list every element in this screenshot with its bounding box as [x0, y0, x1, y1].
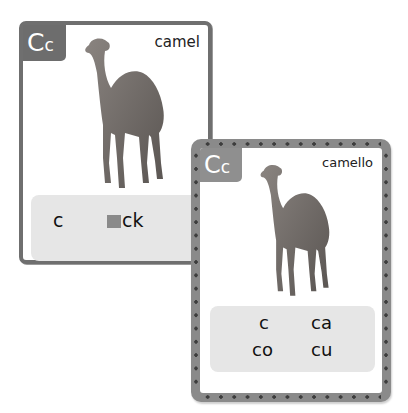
card-face: Cc camello c ca co cu	[200, 148, 382, 393]
flashcard-camel: Cc camel c ck k	[19, 21, 212, 264]
sound-c: c	[53, 209, 63, 231]
syllable-c: c	[259, 312, 269, 333]
sound-ck: ck	[107, 209, 143, 231]
letter-lower: c	[44, 35, 52, 55]
letter-upper: C	[27, 28, 43, 57]
letter-lower: c	[221, 157, 229, 177]
letter-badge: Cc	[200, 148, 242, 182]
syllable-box: c ca co cu	[210, 306, 375, 372]
rivet-border-right	[384, 149, 388, 392]
camel-image	[81, 33, 191, 193]
rivet-border-top	[201, 142, 381, 146]
camel-image	[255, 160, 355, 300]
sound-box: c ck k	[31, 195, 209, 261]
letter-badge: Cc	[23, 25, 66, 61]
syllable-ca: ca	[311, 312, 332, 333]
flashcard-camello: Cc camello c ca co cu	[191, 139, 391, 402]
syllable-co: co	[252, 339, 273, 360]
blank-square	[107, 215, 121, 228]
rivet-border-left	[194, 149, 198, 392]
syllable-cu: cu	[311, 339, 332, 360]
rivet-border-bottom	[201, 395, 381, 399]
letter-upper: C	[204, 151, 220, 179]
